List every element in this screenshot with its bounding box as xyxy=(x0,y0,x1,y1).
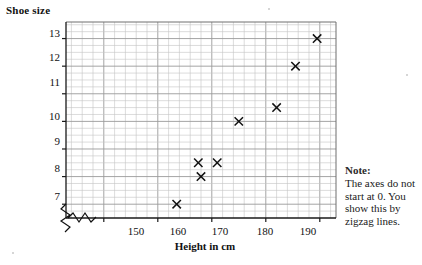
scatter-plot xyxy=(0,0,422,265)
scan-speck xyxy=(12,252,14,254)
chart-canvas: Shoe size 13 12 11 10 9 8 7 150 160 170 … xyxy=(0,0,422,265)
scan-speck xyxy=(406,74,408,76)
gridlines xyxy=(66,22,336,218)
scan-speck xyxy=(268,8,270,10)
